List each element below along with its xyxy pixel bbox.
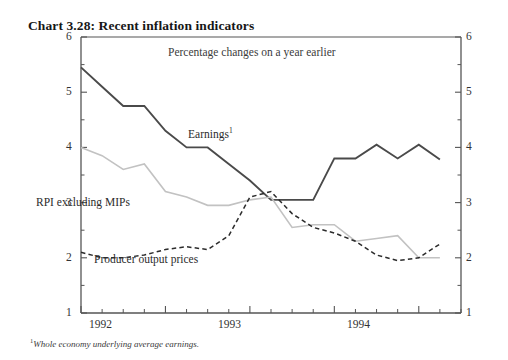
series-line-producer-output-prices [81,192,440,261]
series-line-rpi-excluding-mips [81,147,440,257]
chart-plot [0,0,508,360]
y-axis-right-label-4: 4 [466,140,472,152]
footnote-text: Whole economy underlying average earning… [33,339,199,349]
y-axis-left-label-4: 4 [66,140,72,152]
y-axis-left-label-1: 1 [66,306,72,318]
series-label-earnings-superscript: 1 [229,126,233,135]
y-axis-right-label-6: 6 [466,30,472,42]
series-label-rpi: RPI excluding MIPs [36,196,130,208]
x-axis-label-1994: 1994 [347,318,370,330]
footnote: 1Whole economy underlying average earnin… [30,337,199,349]
y-axis-left-label-5: 5 [66,85,72,97]
series-label-earnings-text: Earnings [188,128,229,140]
y-axis-left-label-2: 2 [66,251,72,263]
x-axis-label-1992: 1992 [89,318,112,330]
series-label-producer-output-prices: Producer output prices [94,253,198,265]
series-line-earnings [81,67,440,199]
y-axis-right-label-3: 3 [466,196,472,208]
y-axis-left-label-6: 6 [66,30,72,42]
y-axis-right-label-2: 2 [466,251,472,263]
y-axis-right-label-1: 1 [466,306,472,318]
series-label-earnings: Earnings1 [188,126,233,140]
y-axis-right-label-5: 5 [466,85,472,97]
chart-page: Chart 3.28: Recent inflation indicators … [0,0,508,360]
x-axis-label-1993: 1993 [218,318,241,330]
